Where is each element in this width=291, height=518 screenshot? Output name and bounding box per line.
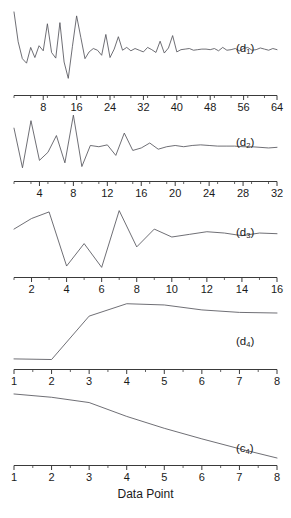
x-tick-label: 5 <box>161 375 167 388</box>
x-tick-label: 2 <box>28 283 34 296</box>
panel-label-prefix: (d <box>236 226 246 238</box>
plot-area-d4 <box>14 300 277 362</box>
x-tick-label: 4 <box>64 283 70 296</box>
x-tick-label: 8 <box>70 187 76 200</box>
panel-label-prefix: (d <box>236 42 246 54</box>
panel-label-suffix: ) <box>250 42 254 54</box>
x-tick-label: 8 <box>274 375 280 388</box>
x-tick-label: 4 <box>36 187 42 200</box>
x-tick-label: 28 <box>237 187 249 200</box>
x-tick-labels-d4: 12345678 <box>14 375 277 389</box>
x-tick-label: 7 <box>236 471 242 484</box>
panel-label-suffix: ) <box>250 335 254 347</box>
panel-label-d2: (d2) <box>236 136 254 148</box>
x-tick-label: 8 <box>274 471 280 484</box>
x-tick-label: 6 <box>199 375 205 388</box>
panel-label-subscript: 4 <box>246 447 250 456</box>
x-tick-label: 32 <box>271 187 283 200</box>
x-tick-label: 6 <box>199 471 205 484</box>
x-tick-label: 12 <box>101 187 113 200</box>
panel-label-suffix: ) <box>250 136 254 148</box>
panel-label-prefix: (c <box>236 442 246 454</box>
x-tick-label: 4 <box>124 375 130 388</box>
x-tick-label: 2 <box>49 375 55 388</box>
wavelet-decomposition-figure: (d1)816243240485664(d2)48121620242832(d3… <box>0 0 291 518</box>
panel-label-suffix: ) <box>250 226 254 238</box>
x-tick-labels-c4: 12345678 <box>14 471 277 485</box>
x-tick-label: 4 <box>124 471 130 484</box>
x-tick-label: 1 <box>11 375 17 388</box>
panel-label-d1: (d1) <box>236 42 254 54</box>
x-tick-labels-d2: 48121620242832 <box>14 187 277 201</box>
x-tick-label: 10 <box>166 283 178 296</box>
panel-label-prefix: (d <box>236 335 246 347</box>
panel-label-suffix: ) <box>250 442 254 454</box>
x-tick-label: 6 <box>99 283 105 296</box>
x-tick-label: 16 <box>135 187 147 200</box>
panel-label-d4: (d4) <box>236 335 254 347</box>
x-tick-label: 2 <box>49 471 55 484</box>
x-tick-label: 8 <box>134 283 140 296</box>
x-tick-label: 7 <box>236 375 242 388</box>
panel-label-subscript: 3 <box>246 231 250 240</box>
x-tick-labels-d3: 246810121416 <box>14 283 277 297</box>
panel-label-prefix: (d <box>236 136 246 148</box>
panel-label-c4: (c4) <box>236 442 254 454</box>
x-tick-label: 3 <box>86 471 92 484</box>
panel-label-subscript: 1 <box>246 47 250 56</box>
x-tick-label: 5 <box>161 471 167 484</box>
panel-label-subscript: 4 <box>246 340 250 349</box>
series-line-d3 <box>14 211 277 268</box>
x-tick-label: 20 <box>169 187 181 200</box>
panel-label-d3: (d3) <box>236 226 254 238</box>
panel-label-subscript: 2 <box>246 141 250 150</box>
x-tick-label: 3 <box>86 375 92 388</box>
x-tick-label: 24 <box>203 187 215 200</box>
x-tick-label: 14 <box>236 283 248 296</box>
x-axis-title: Data Point <box>0 487 291 501</box>
series-line-d4 <box>14 304 277 360</box>
x-tick-label: 16 <box>271 283 283 296</box>
x-tick-label: 1 <box>11 471 17 484</box>
x-tick-label: 12 <box>201 283 213 296</box>
